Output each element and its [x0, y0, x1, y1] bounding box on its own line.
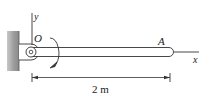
dimension-arrow-left-icon	[32, 76, 38, 79]
origin-label: O	[34, 32, 42, 44]
point-A-label: A	[157, 35, 165, 47]
pin-inner	[29, 50, 33, 54]
rotation-arrowhead-icon	[50, 62, 57, 68]
dimension-arrow-right-icon	[164, 76, 170, 79]
wall-support	[7, 31, 19, 71]
diagram-canvas: y O A x 2 m	[0, 0, 212, 100]
y-axis-label: y	[33, 11, 39, 22]
rod-OA	[31, 48, 174, 57]
x-axis-label: x	[192, 54, 198, 65]
length-label: 2 m	[92, 83, 109, 95]
